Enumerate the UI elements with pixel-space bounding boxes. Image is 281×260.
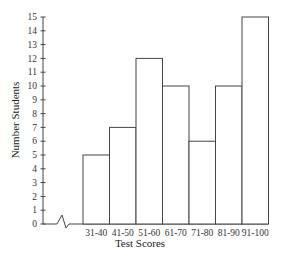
bars	[83, 17, 269, 224]
y-tick-label: 8	[32, 109, 37, 119]
bar-61-70	[163, 86, 190, 224]
y-tick-label: 10	[28, 81, 38, 91]
y-tick-label: 2	[32, 192, 37, 202]
x-tick-label: 81-90	[218, 228, 240, 238]
bar-31-40	[83, 155, 110, 224]
bar-71-80	[189, 141, 216, 224]
x-tick-label: 31-40	[85, 228, 107, 238]
y-tick-label: 6	[32, 136, 37, 146]
y-tick-label: 11	[28, 67, 37, 77]
bar-91-100	[242, 17, 269, 224]
x-tick-label: 61-70	[165, 228, 187, 238]
bar-81-90	[216, 86, 243, 224]
x-axis-title: Test Scores	[115, 237, 165, 249]
y-tick-label: 5	[32, 150, 37, 160]
y-tick-label: 0	[32, 219, 37, 229]
y-tick-label: 1	[32, 205, 37, 215]
y-tick-label: 9	[32, 95, 37, 105]
y-axis-title: Number Students	[9, 82, 21, 159]
y-tick-label: 12	[28, 54, 38, 64]
y-axis: 0123456789101112131415	[28, 12, 46, 229]
x-tick-label: 91-100	[242, 228, 269, 238]
histogram-chart: 0123456789101112131415 31-4041-5051-6061…	[0, 0, 281, 260]
bar-51-60	[136, 58, 163, 224]
bar-41-50	[110, 127, 137, 224]
y-tick-label: 3	[32, 178, 37, 188]
y-tick-label: 13	[28, 40, 38, 50]
y-tick-label: 15	[28, 12, 38, 22]
y-tick-label: 7	[32, 123, 37, 133]
y-tick-label: 4	[32, 164, 37, 174]
y-tick-label: 14	[28, 26, 38, 36]
x-tick-labels: 31-4041-5051-6061-7071-8081-9091-100	[85, 228, 269, 238]
x-tick-label: 71-80	[191, 228, 213, 238]
